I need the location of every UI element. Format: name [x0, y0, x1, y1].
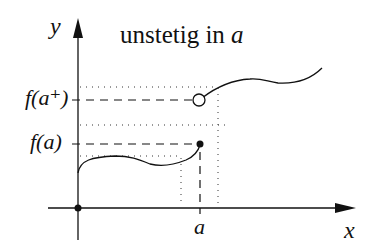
title-text: unstetig in — [120, 21, 231, 48]
function-left-branch — [78, 145, 200, 173]
x-axis-arrow — [335, 203, 356, 213]
tick-label-fa: f(a) — [30, 131, 62, 153]
tick-label-fa-plus: f(a⁺) — [25, 87, 68, 109]
point-fa-plus-open — [193, 94, 205, 106]
x-axis-label: x — [344, 218, 355, 242]
function-right-branch — [202, 68, 322, 98]
chart-title: unstetig in a — [120, 22, 244, 47]
point-fa — [197, 141, 204, 148]
title-var: a — [231, 21, 244, 48]
tick-label-a: a — [194, 216, 205, 238]
y-axis-arrow — [73, 18, 83, 38]
y-axis-label: y — [50, 14, 61, 38]
origin-point — [75, 205, 82, 212]
